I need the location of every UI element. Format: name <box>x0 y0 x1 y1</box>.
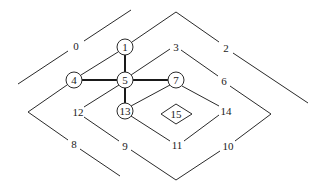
diamond-node-15: 15 <box>161 104 192 124</box>
node-label-7: 7 <box>173 74 179 86</box>
edge-label-14: 14 <box>221 105 233 117</box>
contour-line-outer <box>28 12 308 112</box>
node-label-13: 13 <box>120 105 132 117</box>
edge-label-9: 9 <box>122 140 128 152</box>
edge-label-11: 11 <box>172 139 183 151</box>
node-label-4: 4 <box>71 74 77 86</box>
edge-label-8: 8 <box>71 138 77 150</box>
circle-node-7: 7 <box>168 72 184 88</box>
edge-label-0: 0 <box>73 40 79 52</box>
circle-node-13: 13 <box>117 103 133 119</box>
circle-node-4: 4 <box>66 72 82 88</box>
edge-label-10: 10 <box>223 140 235 152</box>
node-label-1: 1 <box>122 41 128 53</box>
edge-label-12: 12 <box>73 106 84 118</box>
circle-node-5: 5 <box>117 72 133 88</box>
edge-label-2: 2 <box>223 42 229 54</box>
circle-node-1: 1 <box>117 39 133 55</box>
edge-label-3: 3 <box>173 41 179 53</box>
contour-graph-diagram: 15 1 4 5 7 13 0 2 3 6 8 9 10 11 12 14 <box>0 0 324 190</box>
edge-label-6: 6 <box>221 75 227 87</box>
node-label-15: 15 <box>171 108 183 120</box>
node-label-5: 5 <box>122 74 128 86</box>
